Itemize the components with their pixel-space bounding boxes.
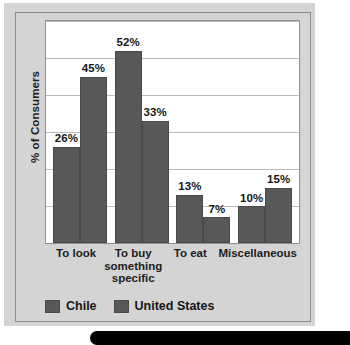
- category-label: Miscellaneous: [218, 247, 297, 285]
- bar-group: 13%7%: [173, 21, 235, 243]
- bar-slot: 45%: [80, 21, 107, 243]
- category-axis-labels: To lookTo buysomethingspecificTo eatMisc…: [45, 247, 300, 285]
- bar-value-label: 7%: [209, 204, 226, 216]
- bar-value-label: 13%: [178, 181, 201, 193]
- bar-slot: 10%: [238, 21, 265, 243]
- legend-item[interactable]: Chile: [45, 299, 97, 313]
- bar[interactable]: [80, 77, 107, 244]
- bar-value-label: 33%: [144, 107, 167, 119]
- plot-area: 26%45%52%33%13%7%10%15%: [45, 20, 300, 244]
- legend-swatch: [114, 300, 129, 313]
- y-axis-title: % of Consumers: [29, 47, 41, 187]
- bar[interactable]: [238, 206, 265, 243]
- bar-slot: 33%: [142, 21, 169, 243]
- bar[interactable]: [176, 195, 203, 243]
- bar[interactable]: [115, 51, 142, 243]
- figure-plate: % of Consumers 26%45%52%33%13%7%10%15% T…: [4, 3, 315, 326]
- bar-value-label: 15%: [267, 174, 290, 186]
- bar-value-label: 26%: [55, 133, 78, 145]
- bar-slot: 13%: [176, 21, 203, 243]
- category-label: To eat: [162, 247, 218, 285]
- bar-value-label: 45%: [82, 63, 105, 75]
- legend-label: United States: [135, 299, 215, 313]
- bar-group: 26%45%: [49, 21, 111, 243]
- bar[interactable]: [265, 188, 292, 244]
- category-label: To buysomethingspecific: [104, 247, 162, 285]
- legend-label: Chile: [66, 299, 97, 313]
- bar-slot: 52%: [115, 21, 142, 243]
- bar[interactable]: [142, 121, 169, 243]
- bar-group: 52%33%: [111, 21, 173, 243]
- legend-swatch: [45, 300, 60, 313]
- bar-group: 10%15%: [234, 21, 296, 243]
- bar[interactable]: [203, 217, 230, 243]
- bar-value-label: 52%: [117, 37, 140, 49]
- bar-slot: 15%: [265, 21, 292, 243]
- chart-legend: ChileUnited States: [45, 299, 300, 313]
- bar[interactable]: [53, 147, 80, 243]
- legend-item[interactable]: United States: [114, 299, 215, 313]
- decorative-bottom-bar: [90, 331, 350, 345]
- category-label: To look: [48, 247, 104, 285]
- bar-slot: 7%: [203, 21, 230, 243]
- bar-slot: 26%: [53, 21, 80, 243]
- bar-value-label: 10%: [240, 193, 263, 205]
- bar-groups: 26%45%52%33%13%7%10%15%: [46, 21, 299, 243]
